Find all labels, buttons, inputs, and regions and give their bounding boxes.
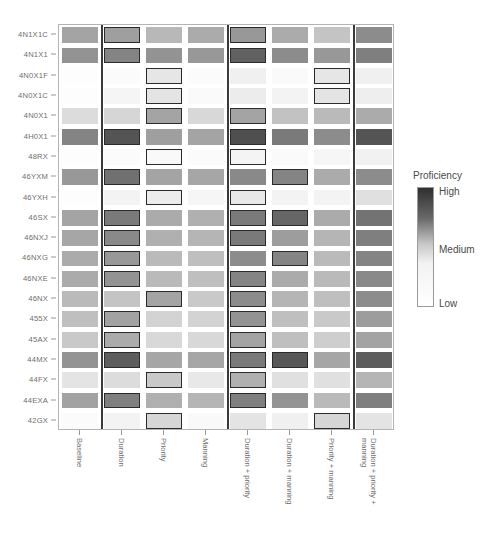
heatmap-cell bbox=[146, 169, 182, 185]
x-tick-label: Duration + manning bbox=[284, 438, 293, 505]
heatmap-cell bbox=[62, 48, 98, 64]
heatmap-cell bbox=[188, 291, 224, 307]
heatmap-cell bbox=[104, 108, 140, 124]
heatmap-cell bbox=[188, 88, 224, 104]
y-tick-mark bbox=[51, 379, 56, 380]
heatmap-cell bbox=[272, 149, 308, 165]
heatmap-cell bbox=[62, 230, 98, 246]
y-tick-mark bbox=[51, 277, 56, 278]
heatmap-cell bbox=[356, 129, 392, 145]
heatmap-cell bbox=[62, 129, 98, 145]
heatmap-cell bbox=[230, 311, 266, 327]
y-tick-label: 46NX bbox=[28, 294, 48, 303]
heatmap-cell bbox=[188, 393, 224, 409]
group-separator bbox=[353, 25, 355, 429]
y-tick-label: 48RX bbox=[28, 151, 48, 160]
heatmap-cell bbox=[62, 393, 98, 409]
y-tick-mark bbox=[51, 155, 56, 156]
y-tick-mark bbox=[51, 298, 56, 299]
heatmap-cell bbox=[188, 332, 224, 348]
heatmap-cell bbox=[272, 88, 308, 104]
x-tick-mark bbox=[205, 430, 206, 435]
heatmap-cell bbox=[146, 27, 182, 43]
y-tick-mark bbox=[51, 74, 56, 75]
y-tick-mark bbox=[51, 135, 56, 136]
heatmap-cell bbox=[356, 190, 392, 206]
heatmap-cell bbox=[314, 251, 350, 267]
y-tick-label: 46NXG bbox=[22, 253, 48, 262]
heatmap-cell bbox=[104, 291, 140, 307]
heatmap-cell bbox=[146, 190, 182, 206]
heatmap-cell bbox=[272, 27, 308, 43]
heatmap-cell bbox=[62, 271, 98, 287]
y-tick-mark bbox=[51, 338, 56, 339]
heatmap-figure: 4N1X1C4N1X14N0X1F4N0X1C4N0X14H0X148RX46Y… bbox=[0, 0, 491, 541]
heatmap-cell bbox=[146, 251, 182, 267]
heatmap-cell bbox=[272, 393, 308, 409]
y-tick-label: 4N0X1F bbox=[19, 70, 48, 79]
heatmap-cell bbox=[356, 291, 392, 307]
heatmap-cell bbox=[356, 251, 392, 267]
y-tick-mark bbox=[51, 196, 56, 197]
x-tick-label: Baseline bbox=[74, 438, 83, 467]
heatmap-cell bbox=[356, 413, 392, 429]
heatmap-cell bbox=[104, 88, 140, 104]
heatmap-cell bbox=[104, 230, 140, 246]
heatmap-cell bbox=[62, 210, 98, 226]
heatmap-cell bbox=[230, 27, 266, 43]
heatmap-cell bbox=[230, 149, 266, 165]
heatmap-cell bbox=[104, 129, 140, 145]
heatmap-cell bbox=[188, 48, 224, 64]
heatmap-cell bbox=[188, 68, 224, 84]
heatmap-cell bbox=[356, 332, 392, 348]
y-axis: 4N1X1C4N1X14N0X1F4N0X1C4N0X14H0X148RX46Y… bbox=[0, 24, 58, 430]
heatmap-cell bbox=[314, 271, 350, 287]
heatmap-cell bbox=[356, 372, 392, 388]
heatmap-cell bbox=[62, 413, 98, 429]
heatmap-cell bbox=[230, 210, 266, 226]
heatmap-cell bbox=[188, 129, 224, 145]
heatmap-cell bbox=[188, 27, 224, 43]
heatmap-cell bbox=[272, 291, 308, 307]
heatmap-cell bbox=[314, 169, 350, 185]
y-tick-label: 4N1X1C bbox=[18, 30, 48, 39]
heatmap-cell bbox=[356, 393, 392, 409]
legend-gradient-bar bbox=[417, 187, 434, 307]
x-tick-mark bbox=[331, 430, 332, 435]
heatmap-cell bbox=[146, 88, 182, 104]
group-separator bbox=[101, 25, 103, 429]
heatmap-cell bbox=[272, 372, 308, 388]
heatmap-cell bbox=[272, 190, 308, 206]
heatmap-cell bbox=[188, 413, 224, 429]
x-tick-mark bbox=[163, 430, 164, 435]
y-tick-label: 42GX bbox=[28, 415, 48, 424]
heatmap-cell bbox=[62, 149, 98, 165]
heatmap-cell bbox=[314, 108, 350, 124]
y-tick-mark bbox=[51, 115, 56, 116]
heatmap-cell bbox=[314, 190, 350, 206]
heatmap-cell bbox=[272, 251, 308, 267]
heatmap-cell bbox=[314, 48, 350, 64]
heatmap-cell bbox=[104, 169, 140, 185]
y-tick-mark bbox=[51, 176, 56, 177]
heatmap-cell bbox=[356, 271, 392, 287]
heatmap-cell bbox=[314, 149, 350, 165]
plot-panel bbox=[58, 24, 394, 430]
x-tick-mark bbox=[289, 430, 290, 435]
legend-title: Proficiency bbox=[413, 170, 462, 181]
heatmap-cell bbox=[314, 291, 350, 307]
heatmap-cell bbox=[272, 230, 308, 246]
heatmap-cell bbox=[356, 68, 392, 84]
heatmap-cell bbox=[356, 169, 392, 185]
heatmap-cell bbox=[272, 311, 308, 327]
heatmap-cell bbox=[230, 271, 266, 287]
heatmap-cell bbox=[230, 251, 266, 267]
heatmap-cell bbox=[230, 372, 266, 388]
heatmap-cell bbox=[62, 332, 98, 348]
x-tick-mark bbox=[79, 430, 80, 435]
legend-label-low: Low bbox=[439, 298, 457, 309]
heatmap-cell bbox=[104, 210, 140, 226]
y-tick-mark bbox=[51, 237, 56, 238]
heatmap-cell bbox=[146, 352, 182, 368]
heatmap-cell bbox=[230, 108, 266, 124]
